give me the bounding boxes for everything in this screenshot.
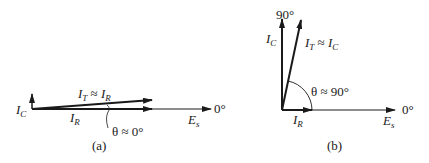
ir-label-a: IR [69,110,80,127]
it-phasor-b [282,20,301,110]
ic-label-a: IC [15,102,27,119]
theta-arc-b [288,81,312,110]
theta-label-a: θ ≈ 0° [112,124,144,139]
caption-b: (b) [327,138,342,153]
ninety-deg-label-b: 90° [276,7,294,22]
theta-label-b: θ ≈ 90° [311,84,349,99]
caption-a: (a) [92,138,106,153]
zero-deg-label-a: 0° [214,101,226,116]
it-label-b: IT ≈ IC [304,35,339,52]
ir-label-b: IR [292,112,303,129]
it-phasor-a [32,100,152,109]
phasor-diagrams: IC IT ≈ IR IR Es 0° θ ≈ 0° (a) 90° IC IT… [0,0,429,163]
panel-b: 90° IC IT ≈ IC θ ≈ 90° IR Es 0° (b) [265,7,414,153]
ic-label-b: IC [265,31,277,48]
es-label-b: Es [382,113,395,130]
it-label-a: IT ≈ IR [77,86,111,103]
zero-deg-label-b: 0° [402,102,414,117]
es-label-a: Es [187,112,200,129]
panel-a: IC IT ≈ IR IR Es 0° θ ≈ 0° (a) [15,86,226,153]
